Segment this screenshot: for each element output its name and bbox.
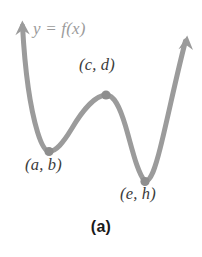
point-marker-local-maximum-cd [101,90,110,99]
local-minimum-label-ab: (a, b) [25,157,62,174]
figure-part-caption: (a) [0,218,202,236]
function-equation-label: y = f(x) [33,20,86,37]
figure-container: y = f(x) (c, d) (a, b) (e, h) (a) [0,0,202,257]
local-minimum-label-eh: (e, h) [120,186,156,203]
local-maximum-label-cd: (c, d) [79,57,115,74]
